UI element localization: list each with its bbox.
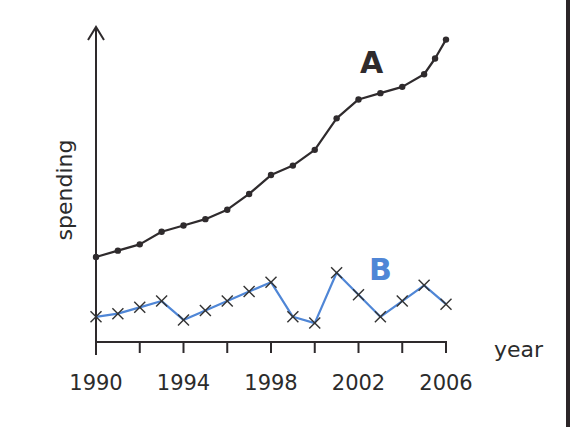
series-a-dot-marker	[399, 84, 405, 90]
series-b-cross-marker	[244, 286, 255, 297]
series-a-dot-marker	[224, 207, 230, 213]
y-axis-label: spending	[52, 140, 77, 241]
x-axis-tick-labels: 19901994199820022006	[69, 371, 472, 395]
line-chart: 19901994199820022006 spending year A B	[0, 0, 581, 427]
series-a-dot-marker	[268, 172, 274, 178]
series-a-dot-marker	[290, 162, 296, 168]
series-a-line	[96, 40, 446, 257]
right-border-rule	[566, 0, 570, 427]
series-b-cross-marker	[375, 311, 386, 322]
series-a-dot-marker	[137, 241, 143, 247]
x-tick-label: 2006	[419, 371, 472, 395]
series-b-markers	[91, 267, 452, 328]
series-a-dot-marker	[432, 55, 438, 61]
x-tick-label: 1998	[244, 371, 297, 395]
series-b-cross-marker	[178, 314, 189, 325]
x-axis-label: year	[494, 337, 544, 362]
series-b-cross-marker	[441, 299, 452, 310]
series-b-cross-marker	[419, 280, 430, 291]
series-a-dot-marker	[443, 36, 449, 42]
series-a-dot-marker	[180, 222, 186, 228]
series-a-dot-marker	[355, 96, 361, 102]
series-b-cross-marker	[331, 267, 342, 278]
series-a-dot-marker	[202, 216, 208, 222]
series-b-cross-marker	[200, 305, 211, 316]
x-tick-label: 2002	[332, 371, 385, 395]
x-tick-label: 1994	[157, 371, 210, 395]
series-a-dot-marker	[312, 147, 318, 153]
series-a-dot-marker	[246, 191, 252, 197]
series-b-cross-marker	[222, 296, 233, 307]
series-b-cross-marker	[397, 296, 408, 307]
series-a-dot-marker	[93, 254, 99, 260]
series-a-dot-marker	[377, 90, 383, 96]
series-b-label: B	[369, 252, 392, 287]
series-a-dot-marker	[333, 115, 339, 121]
series-b-cross-marker	[266, 277, 277, 288]
series-a-label: A	[360, 45, 384, 80]
x-tick-label: 1990	[69, 371, 122, 395]
series-a-dot-marker	[115, 247, 121, 253]
series-a-markers	[93, 36, 449, 260]
series-a-dot-marker	[158, 229, 164, 235]
series-b-line	[96, 273, 446, 323]
series-a-dot-marker	[421, 71, 427, 77]
x-axis-ticks	[96, 342, 446, 355]
series-b-cross-marker	[353, 289, 364, 300]
